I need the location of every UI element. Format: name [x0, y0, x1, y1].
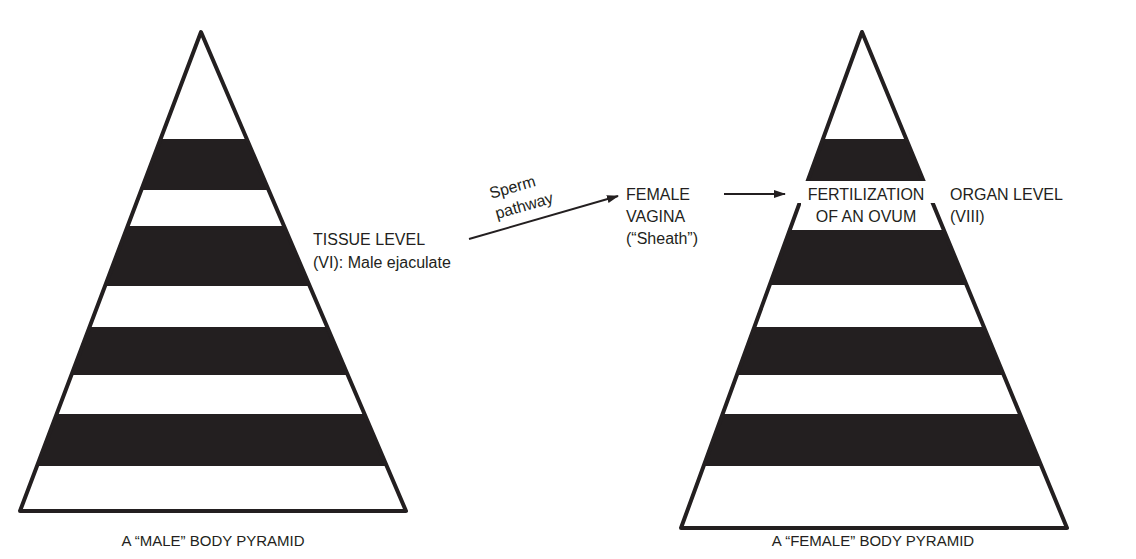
female-pyramid-band-8: [704, 414, 1042, 466]
female-pyramid-band-4: [770, 230, 967, 285]
male-pyramid-band-8: [37, 414, 387, 466]
tissue-level-label-line1: TISSUE LEVEL: [313, 231, 425, 248]
fertilization-label-line1: FERTILIZATION: [808, 186, 925, 203]
female-vagina-label-line1: FEMALE: [626, 186, 690, 203]
female-pyramid-band-1: [823, 32, 906, 139]
female-pyramid-band-2: [807, 139, 925, 183]
female-pyramid-band-6: [737, 327, 1004, 375]
female-pyramid-caption: A “FEMALE” BODY PYRAMID: [772, 532, 974, 549]
female-pyramid-band-5: [754, 285, 984, 327]
male-pyramid: [20, 32, 406, 511]
male-pyramid-caption: A “MALE” BODY PYRAMID: [121, 532, 304, 549]
female-vagina-label-line3: (“Sheath”): [626, 230, 698, 247]
sperm-pathway-label: Sperm pathway: [487, 169, 555, 222]
fertilization-label-line2: OF AN OVUM: [816, 208, 916, 225]
female-pyramid: [681, 32, 1067, 528]
male-pyramid-band-7: [57, 375, 365, 414]
male-pyramid-band-6: [71, 327, 347, 375]
male-pyramid-band-1: [161, 32, 247, 139]
female-vagina-label-line2: VAGINA: [626, 208, 686, 225]
male-pyramid-band-3: [128, 190, 284, 226]
male-pyramid-band-5: [90, 286, 328, 327]
male-pyramid-band-4: [105, 226, 310, 286]
diagram-canvas: A “MALE” BODY PYRAMID A “FEMALE” BODY PY…: [0, 0, 1136, 559]
male-pyramid-band-9: [20, 466, 406, 511]
tissue-level-label-line2: (VI): Male ejaculate: [313, 254, 451, 271]
female-pyramid-band-7: [723, 375, 1020, 414]
female-pyramid-band-9: [681, 466, 1067, 528]
organ-level-label-line1: ORGAN LEVEL: [950, 186, 1063, 203]
organ-level-label-line2: (VIII): [950, 208, 985, 225]
